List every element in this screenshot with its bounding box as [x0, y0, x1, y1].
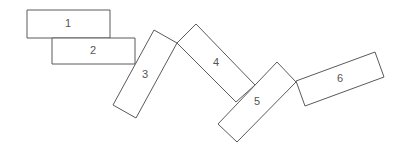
block-1-label: 1 [65, 17, 71, 29]
block-4: 4 [177, 24, 255, 102]
block-6: 6 [296, 52, 384, 106]
block-5-label: 5 [254, 95, 260, 107]
block-6-label: 6 [337, 72, 343, 84]
diagram-canvas: 1 2 3 4 5 6 [0, 0, 405, 153]
diagram-svg: 1 2 3 4 5 6 [0, 0, 405, 153]
block-4-label: 4 [213, 56, 219, 68]
block-1: 1 [27, 10, 110, 38]
block-2: 2 [52, 38, 135, 64]
block-2-label: 2 [90, 44, 96, 56]
block-3-label: 3 [142, 68, 148, 80]
